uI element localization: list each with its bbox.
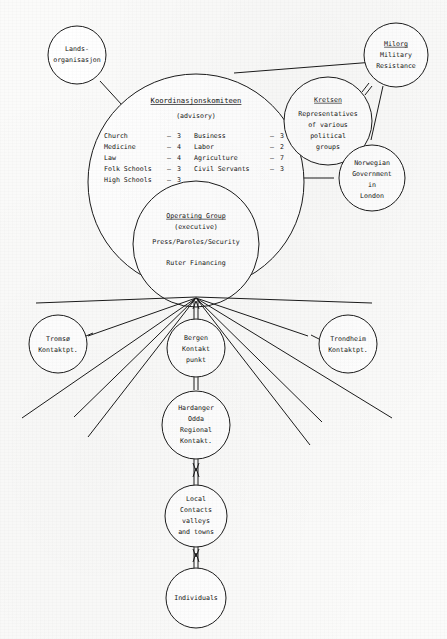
link-milorg-koordinasjon <box>234 62 374 73</box>
individuals-line-1: Individuals <box>174 594 218 602</box>
node-individuals-label: Individuals <box>174 594 218 602</box>
link-milorg-government <box>371 86 383 140</box>
member-left-label-0: Church <box>104 132 128 140</box>
koordinasjon-title: Koordinasjonskomiteen <box>151 96 242 105</box>
member-left-label-3: Folk Schools <box>104 165 152 173</box>
member-right-dash-1: – <box>270 143 274 151</box>
member-left-label-1: Medicine <box>104 143 136 151</box>
koordinasjon-subtitle: (advisory) <box>176 112 216 120</box>
stub-trondheim <box>311 335 319 339</box>
operating-group-subtitle: (executive) <box>174 223 218 231</box>
kretsen-line-1: Kretsen <box>314 96 342 104</box>
gov-line-1: Norwegian <box>354 159 390 167</box>
member-left-count-0: 3 <box>177 132 181 140</box>
link-landsorg-koordinasjon <box>100 81 122 105</box>
member-left-dash-3: – <box>167 165 171 173</box>
member-right-dash-0: – <box>270 132 274 140</box>
bergen-line-3: punkt <box>186 356 206 364</box>
diagram-page: Lands- organisasjon Milorg Military Resi… <box>0 0 447 639</box>
kretsen-line-5: groups <box>316 143 340 151</box>
bergen-line-1: Bergen <box>184 334 208 342</box>
landsorg-line-2: organisasjon <box>53 56 101 64</box>
local-line-2: Contacts <box>180 506 212 514</box>
hardanger-line-1: Hardanger <box>178 404 214 412</box>
member-right-dash-3: – <box>270 165 274 173</box>
landsorg-line-1: Lands- <box>65 45 89 53</box>
operating-group-line4: Ruter Financing <box>166 259 226 267</box>
node-bergen-label: Bergen Kontakt punkt <box>182 334 210 364</box>
member-right-label-1: Labor <box>194 143 214 151</box>
local-line-4: and towns <box>178 528 214 536</box>
node-trondheim-circle[interactable] <box>319 315 377 373</box>
member-left-dash-1: – <box>167 143 171 151</box>
member-right-count-2: 7 <box>280 154 284 162</box>
tromso-line-1: Tromsø <box>46 335 70 343</box>
member-left-dash-2: – <box>167 154 171 162</box>
operating-group-title: Operating Group <box>166 212 226 220</box>
member-right-count-1: 2 <box>280 143 284 151</box>
member-left-dash-4: – <box>167 176 171 184</box>
milorg-line-2: Military <box>380 51 412 59</box>
milorg-line-1: Milorg <box>384 40 408 48</box>
node-tromso-circle[interactable] <box>29 315 87 373</box>
member-left-count-4: 3 <box>177 176 181 184</box>
hardanger-line-4: Kontakt. <box>180 437 212 445</box>
node-norwegian-government-circle[interactable] <box>339 145 405 211</box>
local-line-3: valleys <box>182 517 210 525</box>
local-line-1: Local <box>186 495 206 503</box>
member-left-count-2: 4 <box>177 154 181 162</box>
milorg-line-3: Resistance <box>376 62 416 70</box>
member-left-label-2: Law <box>104 154 116 162</box>
member-left-count-3: 3 <box>177 165 181 173</box>
kretsen-line-2: Representatives <box>298 110 358 118</box>
trondheim-line-1: Trondheim <box>330 335 366 343</box>
tromso-line-2: Kontaktpt. <box>38 346 78 354</box>
member-right-count-3: 3 <box>280 165 284 173</box>
member-left-dash-0: – <box>167 132 171 140</box>
organisation-diagram: Lands- organisasjon Milorg Military Resi… <box>0 0 447 639</box>
kretsen-line-4: political <box>310 132 346 140</box>
kretsen-line-3: of various <box>308 121 348 129</box>
trondheim-line-2: Kontaktpt. <box>328 346 368 354</box>
member-right-count-0: 3 <box>280 132 284 140</box>
member-right-label-3: Civil Servants <box>194 165 250 173</box>
member-right-label-2: Agriculture <box>194 154 238 162</box>
gov-line-2: Government <box>352 170 392 178</box>
hardanger-line-2: Odda <box>188 415 204 423</box>
gov-line-3: in <box>368 181 376 189</box>
hardanger-line-3: Regional <box>180 426 212 434</box>
bergen-line-2: Kontakt <box>182 345 210 353</box>
member-left-count-1: 4 <box>177 143 181 151</box>
member-left-label-4: High Schools <box>104 176 152 184</box>
member-right-label-0: Business <box>194 132 226 140</box>
gov-line-4: London <box>360 192 384 200</box>
operating-group-line3: Press/Paroles/Security <box>152 238 239 246</box>
member-right-dash-2: – <box>270 154 274 162</box>
